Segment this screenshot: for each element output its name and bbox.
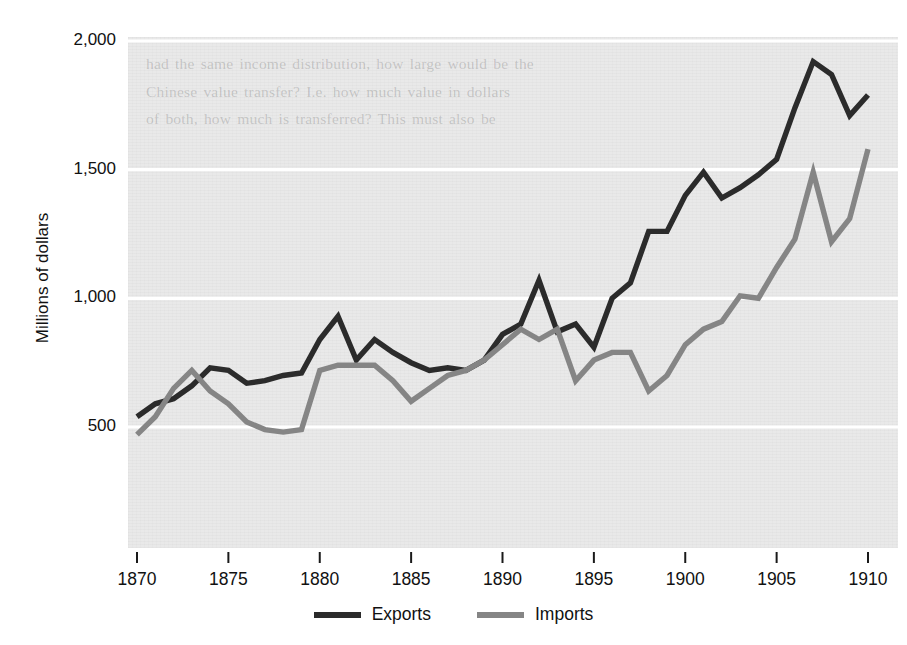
chart-canvas	[0, 0, 907, 645]
legend-swatch-imports	[477, 612, 524, 618]
legend-label-imports: Imports	[535, 604, 593, 625]
x-tick-label-1880: 1880	[275, 569, 365, 590]
y-tick-label-1,000: 1,000	[0, 287, 116, 307]
x-tick-label-1885: 1885	[366, 569, 456, 590]
series-line-imports	[137, 149, 868, 435]
legend-item-imports: Imports	[477, 604, 593, 625]
legend-label-exports: Exports	[372, 604, 431, 625]
x-tick-marks	[137, 552, 868, 563]
gridlines	[128, 41, 898, 427]
x-tick-label-1890: 1890	[458, 569, 548, 590]
y-tick-label-1,500: 1,500	[0, 159, 116, 179]
legend-item-exports: Exports	[314, 604, 431, 625]
chart-legend: Exports Imports	[0, 604, 907, 625]
x-tick-label-1900: 1900	[640, 569, 730, 590]
y-axis-title: Millions of dollars	[33, 173, 53, 383]
chart-figure: had the same income distribution, how la…	[0, 0, 907, 645]
y-tick-label-2,000: 2,000	[0, 30, 116, 50]
x-tick-label-1905: 1905	[732, 569, 822, 590]
legend-swatch-exports	[314, 612, 361, 618]
x-tick-label-1875: 1875	[183, 569, 273, 590]
x-tick-label-1870: 1870	[92, 569, 182, 590]
series-lines	[137, 62, 868, 435]
x-tick-label-1910: 1910	[823, 569, 907, 590]
x-tick-label-1895: 1895	[549, 569, 639, 590]
y-tick-label-500: 500	[0, 416, 116, 436]
series-line-exports	[137, 62, 868, 417]
